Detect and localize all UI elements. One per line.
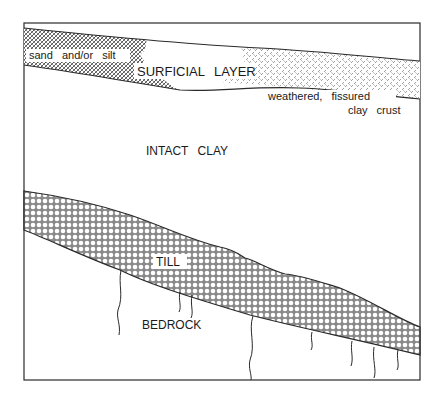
crust-label-line1: weathered, fissured (267, 90, 370, 102)
geologic-cross-section: sand and/or silt SURFICIAL LAYER weather… (0, 0, 437, 408)
surficial-layer-label: SURFICIAL LAYER (137, 64, 256, 79)
till-label: TILL (156, 255, 180, 269)
sand-silt-label: sand and/or silt (29, 49, 116, 61)
bedrock-label: BEDROCK (142, 318, 201, 332)
crust-label-line2: clay crust (348, 104, 400, 116)
intact-clay-label: INTACT CLAY (146, 144, 228, 158)
